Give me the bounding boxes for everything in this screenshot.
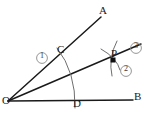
ray-ob: [8, 100, 133, 101]
step-badge-1: 1: [36, 52, 48, 60]
step-badge-3: 3: [130, 42, 142, 50]
point-label-c: C: [57, 44, 64, 55]
point-label-d: D: [73, 98, 81, 109]
ray-oa: [8, 17, 101, 101]
point-label-o: O: [2, 95, 10, 106]
point-label-p: P: [111, 48, 117, 59]
point-label-b: B: [134, 91, 141, 102]
geometry-figure: O A B C D P 1 2 3: [0, 0, 149, 123]
point-label-a: A: [99, 5, 107, 16]
step-badge-2: 2: [120, 65, 132, 73]
